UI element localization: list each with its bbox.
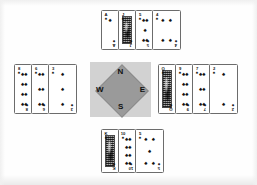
- card-suit-symbol: ♠: [120, 17, 126, 21]
- card-suit-symbol: ♠: [211, 71, 217, 75]
- card-pip: ♠: [185, 91, 188, 97]
- page-edge-top: [0, 0, 257, 6]
- card-pip: ♠: [41, 71, 44, 77]
- card-corner-index: K♠: [111, 162, 117, 170]
- card-pip: ♠: [161, 17, 164, 23]
- hand-east: Q♠Q♠♠♠♠♠♠♠♠♠9♠9♠♠♠♠♠♠♠7♠7♠♠♠2♠2♠: [158, 64, 238, 114]
- playing-card[interactable]: ♠♠2♠2♠: [209, 64, 238, 114]
- card-pip: ♠: [169, 37, 172, 43]
- card-corner-index: J♠: [120, 13, 126, 21]
- card-pip-field: ♠♠: [216, 71, 231, 107]
- playing-card[interactable]: ♠♠♠♠♠♠7♠7♠: [192, 64, 210, 114]
- card-suit-symbol: ♠: [24, 103, 30, 107]
- card-suit-symbol: ♠: [154, 17, 160, 21]
- card-corner-index: 10♠: [128, 162, 134, 170]
- card-suit-symbol: ♠: [177, 71, 183, 75]
- page-edge-left: [0, 0, 5, 185]
- card-corner-index: 9♠: [177, 67, 183, 75]
- card-pip: ♠: [202, 71, 205, 77]
- compass-label-east: E: [140, 86, 145, 94]
- playing-card[interactable]: ♠♠♠3♠3♠: [48, 64, 77, 114]
- card-corner-index: A♠: [111, 39, 117, 47]
- playing-card[interactable]: J♠J♠: [118, 10, 136, 50]
- card-suit-symbol: ♠: [128, 162, 134, 166]
- card-pip: ♠: [128, 136, 131, 142]
- card-suit-symbol: ♠: [137, 136, 143, 140]
- playing-card[interactable]: ♠A♠A♠: [101, 10, 119, 50]
- compass-label-south: S: [118, 103, 123, 111]
- card-corner-index: 6♠: [33, 67, 39, 75]
- card-pip-field: ♠♠♠♠♠♠♠♠: [182, 71, 186, 107]
- hand-west: ♠♠♠♠♠♠♠♠8♠8♠♠♠♠♠♠♠6♠6♠♠♠♠3♠3♠: [14, 64, 77, 114]
- card-pip-field: ♠♠♠♠♠: [142, 136, 157, 166]
- page-edge-right: [252, 0, 257, 185]
- card-suit-symbol: ♠: [16, 71, 22, 75]
- card-corner-index: 7♠: [194, 67, 200, 75]
- card-pip: ♠: [61, 101, 64, 107]
- card-corner-index: 10♠: [120, 132, 126, 140]
- card-pip: ♠: [144, 136, 147, 142]
- playing-card[interactable]: ♠♠♠♠♠♠♠♠8♠8♠: [14, 64, 32, 114]
- playing-card[interactable]: ♠♠♠♠♠5♠5♠: [135, 129, 164, 173]
- card-pip-field: ♠♠♠: [55, 71, 70, 107]
- card-suit-symbol: ♠: [33, 71, 39, 75]
- playing-card[interactable]: ♠♠♠♠♠♠♠♠10♠10♠: [118, 129, 136, 173]
- card-pip: ♠: [61, 86, 64, 92]
- card-pip: ♠: [152, 160, 155, 166]
- card-pip: ♠: [24, 91, 27, 97]
- card-pip: ♠: [145, 17, 148, 23]
- card-suit-symbol: ♠: [168, 103, 174, 107]
- card-pip: ♠: [169, 17, 172, 23]
- card-pip: ♠: [152, 136, 155, 142]
- card-suit-symbol: ♠: [160, 71, 166, 75]
- compass-rose: N W E S: [90, 62, 151, 117]
- card-pip: ♠: [185, 71, 188, 77]
- compass-label-west: W: [96, 86, 104, 94]
- card-pip: ♠: [144, 160, 147, 166]
- playing-card[interactable]: ♠♠♠♠4♠4♠: [152, 10, 181, 50]
- card-pip-field: ♠♠♠♠: [159, 17, 174, 43]
- card-suit-symbol: ♠: [128, 39, 134, 43]
- playing-card[interactable]: ♠♠♠♠♠♠♠♠9♠9♠: [175, 64, 193, 114]
- card-suit-symbol: ♠: [50, 71, 56, 75]
- card-corner-index: 4♠: [173, 39, 179, 47]
- page-edge-bottom: [0, 175, 257, 185]
- card-pip: ♠: [185, 81, 188, 87]
- card-pip: ♠: [128, 144, 131, 150]
- card-corner-index: 5♠: [137, 132, 143, 140]
- card-pip: ♠: [222, 71, 225, 77]
- playing-card[interactable]: ♠♠♠♠♠♠6♠6♠: [31, 64, 49, 114]
- playing-card[interactable]: K♠K♠: [101, 129, 119, 173]
- card-pip: ♠: [222, 101, 225, 107]
- card-pip: ♠: [24, 81, 27, 87]
- card-corner-index: 3♠: [50, 67, 56, 75]
- card-pip-field: ♠♠♠♠♠♠: [199, 71, 203, 107]
- card-corner-index: 3♠: [69, 103, 75, 111]
- card-corner-index: 8♠: [24, 103, 30, 111]
- hand-north: ♠A♠A♠J♠J♠♠♠♠♠♠5♠5♠♠♠♠♠4♠4♠: [101, 10, 181, 50]
- card-corner-index: J♠: [128, 39, 134, 47]
- card-corner-index: 2♠: [230, 103, 236, 111]
- playing-card[interactable]: Q♠Q♠: [158, 64, 176, 114]
- card-suit-symbol: ♠: [230, 103, 236, 107]
- playing-card[interactable]: ♠♠♠♠♠5♠5♠: [135, 10, 153, 50]
- card-pip: ♠: [24, 71, 27, 77]
- card-pip: ♠: [41, 86, 44, 92]
- card-corner-index: 5♠: [156, 162, 162, 170]
- card-suit-symbol: ♠: [111, 39, 117, 43]
- card-suit-symbol: ♠: [137, 17, 143, 21]
- card-pip: ♠: [61, 71, 64, 77]
- card-suit-symbol: ♠: [111, 162, 117, 166]
- card-pip: ♠: [161, 37, 164, 43]
- card-pip: ♠: [128, 152, 131, 158]
- card-corner-index: 6♠: [41, 103, 47, 111]
- card-corner-index: A♠: [103, 13, 109, 21]
- card-suit-symbol: ♠: [185, 103, 191, 107]
- card-suit-symbol: ♠: [194, 71, 200, 75]
- card-suit-symbol: ♠: [103, 136, 109, 140]
- card-suit-symbol: ♠: [173, 39, 179, 43]
- card-suit-symbol: ♠: [145, 39, 151, 43]
- card-corner-index: Q♠: [160, 67, 166, 75]
- card-corner-index: 7♠: [202, 103, 208, 111]
- card-corner-index: 8♠: [16, 67, 22, 75]
